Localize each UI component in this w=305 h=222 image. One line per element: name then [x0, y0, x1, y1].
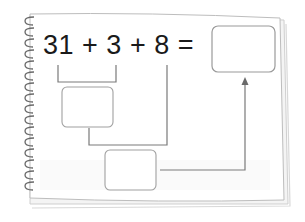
equation: 31 + 3 + 8 = [43, 30, 194, 61]
plus-sign-2: + [130, 30, 146, 61]
plus-sign-1: + [82, 30, 98, 61]
step1-answer-box[interactable] [62, 87, 113, 127]
term-8: 8 [154, 30, 170, 61]
notebook-worksheet: 31 + 3 + 8 = [0, 0, 305, 222]
final-answer-box[interactable] [212, 26, 275, 72]
equals-sign: = [178, 30, 194, 61]
step2-answer-box[interactable] [105, 150, 156, 190]
term-31: 31 [43, 30, 74, 61]
term-3: 3 [106, 30, 122, 61]
